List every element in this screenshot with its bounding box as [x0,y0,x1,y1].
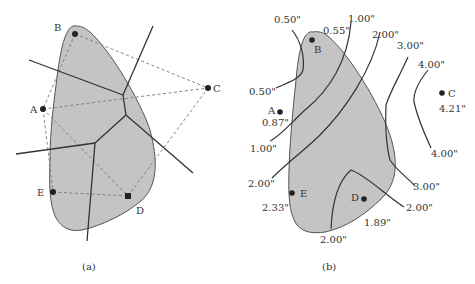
panel-a-caption: (a) [82,261,96,272]
contour-label-050-bottom: 0.50" [249,86,276,97]
station-d-point [361,196,367,202]
station-e-point [50,189,56,195]
contour-label-200-bottom: 2.00" [320,234,347,245]
contour-label-200-top: 2.00" [372,29,399,40]
station-c-point [439,90,445,96]
station-c-point [205,85,211,91]
contour-label-200-left: 2.00" [248,178,275,189]
station-d-value: 1.89" [364,217,391,228]
station-b-value: 0.55" [323,25,350,36]
station-b-label: B [314,44,321,55]
contour-label-400-bottom: 4.00" [431,148,458,159]
panel-b-caption: (b) [322,261,336,272]
station-a-value: 0.87" [262,117,289,128]
station-c-label: C [448,88,456,99]
panel-a: B A C D E (a) [16,22,221,272]
contour-label-050-top: 0.50" [274,14,301,25]
station-b-point [309,37,315,43]
station-e-label: E [300,188,307,199]
contour-label-200-right: 2.00" [406,202,433,213]
station-d-label: D [136,205,144,216]
station-e-point [289,190,295,196]
station-d-point [125,193,131,199]
station-e-value: 2.33" [262,202,289,213]
station-e-label: E [37,187,44,198]
station-b-label: B [54,22,61,33]
station-a-point [40,106,46,112]
figure-canvas: B A C D E (a) B A [0,0,475,284]
contour-label-400-top: 4.00" [418,59,445,70]
contour-label-300-top: 3.00" [397,40,424,51]
station-a-label: A [267,105,276,116]
contour-label-100-bottom: 1.00" [250,143,277,154]
station-a-point [277,109,283,115]
station-c-label: C [213,83,221,94]
station-d-label: D [351,192,359,203]
panel-b: B A 0.87" C 4.21" D 1.89" E 2.33" 0.55" … [248,13,466,272]
station-a-label: A [29,104,38,115]
station-b-point [72,31,78,37]
station-c-value: 4.21" [439,103,466,114]
contour-label-100-top: 1.00" [348,13,375,24]
contour-label-300-bottom: 3.00" [413,181,440,192]
